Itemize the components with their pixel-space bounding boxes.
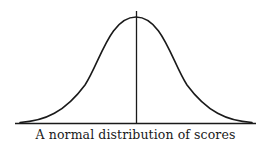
figure-caption: A normal distribution of scores xyxy=(0,127,271,142)
